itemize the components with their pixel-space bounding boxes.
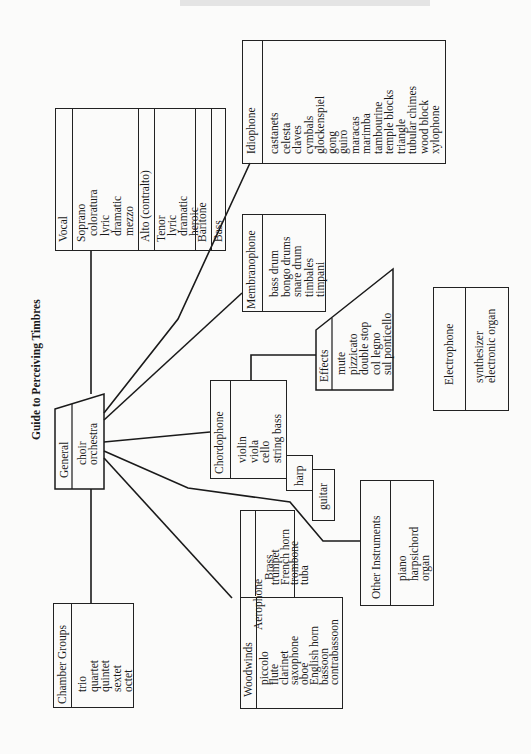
aerophone-label: Aerophone <box>253 579 264 630</box>
effects-item: sul ponticello <box>382 313 393 375</box>
other-instruments-box: Other Instruments piano harpsichord orga… <box>360 480 434 606</box>
alto-label: Alto (contralto) <box>140 170 151 242</box>
brass-item: tuba <box>299 565 310 585</box>
membranophone-box: Membranophone bass drum bongo drums snar… <box>242 214 326 312</box>
guitar-box: guitar <box>312 469 335 521</box>
vocal-box: Vocal Soprano coloratura lyric dramatic … <box>55 108 226 251</box>
idiophone-item: claves <box>292 125 303 154</box>
chamber-groups-box: Chamber Groups trio quartet quintet sext… <box>53 603 134 708</box>
woodwinds-item: contrabassoon <box>329 619 340 685</box>
soprano-label: Soprano <box>76 204 87 242</box>
other-item: piano <box>397 555 408 581</box>
soprano-item: coloratura <box>88 189 99 236</box>
chamber-item: trio <box>77 676 88 692</box>
membranophone-item: timpani <box>315 262 326 297</box>
electrophone-item: synthesizer <box>474 331 485 383</box>
idiophone-item: temple blocks <box>384 90 395 154</box>
membranophone-label: Membranophone <box>246 230 257 309</box>
idiophone-item: castanets <box>269 112 280 154</box>
diagram-title: Guide to Perceiving Timbres <box>30 299 42 440</box>
electrophone-label: Electrophone <box>444 324 455 385</box>
idiophone-label: Idiophone <box>246 107 257 154</box>
idiophone-item: marimba <box>361 113 372 154</box>
chamber-item: quintet <box>100 660 111 692</box>
chordophone-label: Chordophone <box>214 411 225 474</box>
soprano-item: lyric <box>100 215 111 236</box>
effects-item: double stop <box>359 322 370 375</box>
idiophone-item: guiro <box>338 130 349 154</box>
harp-box: harp <box>286 455 313 491</box>
chamber-groups-label: Chamber Groups <box>57 625 68 704</box>
soprano-item: mezzo <box>124 206 135 236</box>
woodwinds-label: Woodwinds <box>243 642 254 697</box>
other-item: organ <box>420 555 431 581</box>
idiophone-item: glockenspiel <box>315 96 326 154</box>
chordophone-item: violin <box>237 436 248 463</box>
idiophone-box: Idiophone castanets celesta claves cymba… <box>242 40 446 164</box>
general-item-orchestra: orchestra <box>88 423 99 465</box>
harp-label: harp <box>294 466 305 486</box>
line-chordophone <box>104 432 210 442</box>
membranophone-item: bass drum <box>269 250 280 297</box>
line-effects <box>251 355 316 380</box>
soprano-item: dramatic <box>112 196 123 236</box>
idiophone-item: xylophone <box>430 105 441 154</box>
guitar-label: guitar <box>318 483 329 510</box>
vocal-label: Vocal <box>58 216 69 242</box>
other-instruments-label: Other Instruments <box>371 516 382 599</box>
bass-label: Bass <box>213 220 224 242</box>
effects-label: Effects <box>319 350 330 382</box>
electrophone-item: electronic organ <box>486 309 497 383</box>
idiophone-item: tubular chimes <box>407 86 418 154</box>
membranophone-item: snare drum <box>292 246 303 297</box>
effects-item: mute <box>336 352 347 375</box>
baritone-label: Baritone <box>197 202 208 242</box>
chamber-item: octet <box>123 670 134 692</box>
chordophone-box: Chordophone violin viola cello string ba… <box>210 380 287 479</box>
chordophone-item: string bass <box>272 414 283 463</box>
electrophone-box: Electrophone synthesizer electronic orga… <box>433 287 509 411</box>
chordophone-item: cello <box>260 441 271 463</box>
general-label: General <box>59 442 70 478</box>
